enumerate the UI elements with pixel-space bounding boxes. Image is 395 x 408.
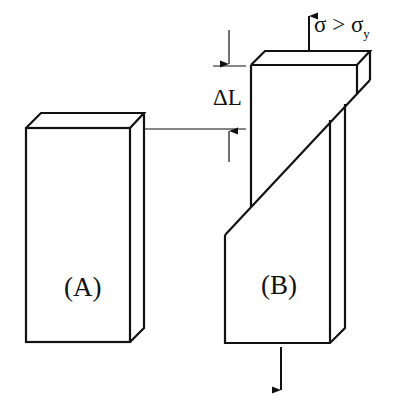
elongation-label: ΔL xyxy=(213,86,242,109)
specimen-b-block xyxy=(225,51,370,343)
load-arrows xyxy=(281,16,309,390)
yield-stress-symbol: σ xyxy=(351,12,363,37)
diagram-drawing xyxy=(0,0,395,408)
shear-deformation-diagram: ΔL σ > σy (A) (B) xyxy=(0,0,395,408)
stress-condition-label: σ > σy xyxy=(314,13,370,36)
specimen-a-block xyxy=(26,113,144,342)
specimen-b-label: (B) xyxy=(261,272,297,299)
stress-symbol: σ xyxy=(314,12,326,37)
specimen-a-label: (A) xyxy=(64,274,101,301)
comparison-operator: > xyxy=(332,12,345,37)
yield-subscript: y xyxy=(363,26,370,41)
